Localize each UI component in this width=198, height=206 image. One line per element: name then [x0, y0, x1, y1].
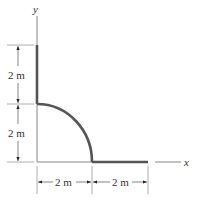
x-axis-label: x: [183, 156, 189, 168]
dimension-left-label: 2 m: [55, 176, 72, 188]
dimension-lower-label: 2 m: [8, 127, 25, 139]
horizontal-dimensions: 2 m 2 m: [37, 166, 148, 194]
rod-arc-segment: [37, 104, 92, 162]
y-axis: y: [32, 3, 38, 45]
dimension-upper-label: 2 m: [8, 69, 25, 81]
vertical-dimensions: 2 m 2 m: [7, 45, 34, 162]
rod: [37, 45, 148, 162]
x-axis: x: [155, 156, 189, 168]
dimension-right-label: 2 m: [112, 176, 129, 188]
rod-diagram: y x 2 m: [0, 0, 198, 206]
y-axis-label: y: [32, 3, 38, 15]
